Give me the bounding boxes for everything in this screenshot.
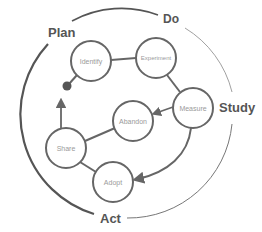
connector-identify-experiment <box>111 58 136 60</box>
pdsa-cycle-diagram <box>0 0 262 232</box>
outer-arc-do-to-study <box>185 28 232 92</box>
node-label-measure: Measure <box>179 105 206 112</box>
phase-label-study: Study <box>219 101 255 114</box>
node-label-abandon: Abandon <box>119 118 147 125</box>
node-label-experiment: Experiment <box>141 55 171 61</box>
phase-label-act: Act <box>100 212 121 225</box>
start-dot <box>63 82 72 91</box>
arrow-measure-abandon <box>156 107 173 113</box>
connector-experiment-measure <box>167 75 180 92</box>
phase-label-do: Do <box>163 13 179 25</box>
connector-identify-dot <box>69 75 77 84</box>
node-label-share: Share <box>57 145 76 152</box>
connector-share-abandon <box>85 128 115 141</box>
outer-arc-plan-to-do <box>72 8 158 21</box>
node-label-identify: Identify <box>80 58 103 65</box>
phase-label-plan: Plan <box>48 26 75 39</box>
node-label-adopt: Adopt <box>104 179 122 186</box>
connector-share-adopt <box>80 162 96 172</box>
